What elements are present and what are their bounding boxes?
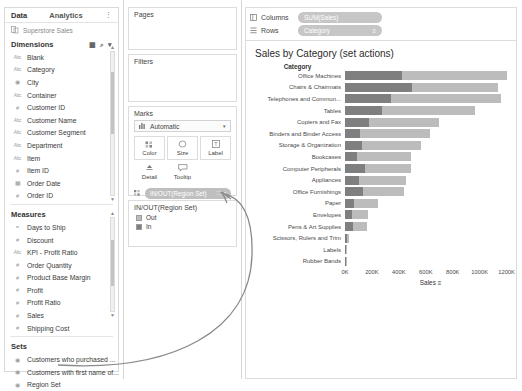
- measure-item[interactable]: #Sales: [5, 309, 118, 322]
- measure-item[interactable]: #Profit Ratio: [5, 297, 118, 310]
- measure-item[interactable]: #Order Quantity: [5, 259, 118, 272]
- rows-shelf[interactable]: Rows Category ≡: [250, 24, 512, 37]
- dimensions-scroll-down[interactable]: ▼: [110, 196, 115, 202]
- detail-button[interactable]: Detail: [134, 160, 165, 184]
- table-row[interactable]: Copiers and Fax: [246, 116, 516, 128]
- bar-segment-out[interactable]: [363, 187, 405, 196]
- search-icon[interactable]: ⌕: [100, 41, 104, 49]
- tab-data[interactable]: Data: [11, 11, 27, 20]
- table-row[interactable]: Pens & Art Supplies: [246, 221, 516, 233]
- dimensions-scrollbar-thumb[interactable]: [111, 72, 114, 134]
- bar-segment-in[interactable]: [345, 118, 369, 127]
- legend-item-in[interactable]: In: [129, 222, 236, 231]
- filters-card[interactable]: Filters: [128, 54, 237, 102]
- bar-segment-out[interactable]: [352, 210, 368, 219]
- bar-segment-in[interactable]: [345, 83, 412, 92]
- bar-segment-out[interactable]: [359, 176, 406, 185]
- dimension-item[interactable]: #Order ID: [5, 190, 118, 203]
- rows-pill-category[interactable]: Category ≡: [298, 25, 382, 36]
- bar-segment-in[interactable]: [345, 129, 360, 138]
- bar-segment-out[interactable]: [353, 222, 367, 231]
- grid-icon[interactable]: ▦: [89, 41, 96, 49]
- bar-segment-in[interactable]: [345, 222, 353, 231]
- tab-analytics[interactable]: Analytics: [49, 11, 82, 20]
- bar-segment-out[interactable]: [347, 234, 349, 243]
- bar-segment-out[interactable]: [391, 94, 500, 103]
- mark-type-dropdown[interactable]: Automatic ▾: [134, 120, 231, 132]
- dimensions-scroll-up[interactable]: ▲: [110, 44, 115, 50]
- table-row[interactable]: Office Machines: [246, 70, 516, 82]
- bar-segment-in[interactable]: [345, 210, 352, 219]
- table-row[interactable]: Telephones and Commun...: [246, 93, 516, 105]
- bar-segment-in[interactable]: [345, 199, 354, 208]
- legend-item-out[interactable]: Out: [129, 213, 236, 222]
- dimensions-scrollbar[interactable]: [110, 51, 115, 196]
- bar-segment-out[interactable]: [365, 164, 411, 173]
- measures-scrollbar-thumb[interactable]: [111, 240, 114, 286]
- bar-segment-in[interactable]: [345, 176, 359, 185]
- bar-segment-out[interactable]: [412, 83, 498, 92]
- measures-scrollbar[interactable]: [110, 217, 115, 312]
- label-button[interactable]: T Label: [200, 136, 231, 160]
- bar-segment-in[interactable]: [345, 164, 365, 173]
- sort-icon[interactable]: ≡: [372, 28, 376, 34]
- columns-pill-sum-sales[interactable]: SUM(Sales): [298, 12, 382, 23]
- marks-pill-icons[interactable]: ⛶ ≡: [217, 190, 226, 197]
- color-button[interactable]: Color: [134, 136, 165, 160]
- bar-segment-out[interactable]: [357, 152, 412, 161]
- columns-shelf[interactable]: Columns SUM(Sales): [250, 11, 512, 24]
- size-button[interactable]: Size: [167, 136, 198, 160]
- table-row[interactable]: Office Furnishings: [246, 186, 516, 198]
- dimension-item[interactable]: #Item ID: [5, 164, 118, 177]
- bar-segment-in[interactable]: [345, 152, 357, 161]
- measure-item[interactable]: #Product Base Margin: [5, 272, 118, 285]
- table-row[interactable]: Bookcases: [246, 151, 516, 163]
- datasource-row[interactable]: Superstore Sales: [5, 23, 118, 37]
- set-item[interactable]: ◉Customers with first name of...: [5, 366, 118, 379]
- dimension-item[interactable]: AbcContainer: [5, 89, 118, 102]
- bar-segment-in[interactable]: [345, 141, 362, 150]
- bar-segment-out[interactable]: [360, 129, 430, 138]
- bar-segment-in[interactable]: [345, 94, 391, 103]
- measure-item[interactable]: #Profit: [5, 284, 118, 297]
- dimension-item[interactable]: AbcCustomer Name: [5, 114, 118, 127]
- bar-segment-in[interactable]: [345, 187, 363, 196]
- data-pane-more-icon[interactable]: ⋮: [105, 11, 113, 19]
- dimension-item[interactable]: AbcBlank: [5, 51, 118, 64]
- table-row[interactable]: Binders and Binder Access: [246, 128, 516, 140]
- table-row[interactable]: Paper: [246, 198, 516, 210]
- dimension-item[interactable]: ▦Order Date: [5, 177, 118, 190]
- dimension-item[interactable]: AbcItem: [5, 152, 118, 165]
- marks-pill-in-out-region-set[interactable]: IN/OUT(Region Set) ⛶ ≡: [145, 188, 231, 199]
- dimension-item[interactable]: AbcCustomer Segment: [5, 127, 118, 140]
- table-row[interactable]: Rubber Bands: [246, 256, 516, 268]
- measure-item[interactable]: =Days to Ship: [5, 221, 118, 234]
- table-row[interactable]: Chairs & Chairmats: [246, 82, 516, 94]
- bar-segment-out[interactable]: [382, 106, 475, 115]
- set-item[interactable]: ◉Region Set: [5, 379, 118, 391]
- dimension-item[interactable]: #Customer ID: [5, 101, 118, 114]
- bar-segment-in[interactable]: [345, 106, 382, 115]
- measures-scroll-up[interactable]: ▲: [110, 210, 115, 216]
- dimension-item[interactable]: ◉City: [5, 76, 118, 89]
- table-row[interactable]: Appliances: [246, 174, 516, 186]
- table-row[interactable]: Computer Peripherals: [246, 163, 516, 175]
- measure-item[interactable]: #Discount: [5, 234, 118, 247]
- measure-item[interactable]: AbcKPI - Profit Ratio: [5, 246, 118, 259]
- bar-segment-out[interactable]: [354, 199, 378, 208]
- bar-segment-out[interactable]: [369, 118, 440, 127]
- axis-sort-icon[interactable]: ≡: [438, 280, 442, 286]
- dimension-item[interactable]: AbcCategory: [5, 64, 118, 77]
- table-row[interactable]: Envelopes: [246, 209, 516, 221]
- dimension-item[interactable]: AbcDepartment: [5, 139, 118, 152]
- measure-item[interactable]: #Shipping Cost: [5, 322, 118, 335]
- chevron-down-icon[interactable]: ▾: [223, 123, 226, 129]
- bar-segment-out[interactable]: [362, 141, 421, 150]
- table-row[interactable]: Tables: [246, 105, 516, 117]
- bar-segment-out[interactable]: [346, 245, 347, 254]
- bar-segment-out[interactable]: [402, 71, 506, 80]
- table-row[interactable]: Labels: [246, 244, 516, 256]
- table-row[interactable]: Scissors, Rulers and Trim: [246, 232, 516, 244]
- table-row[interactable]: Storage & Organization: [246, 140, 516, 152]
- set-item[interactable]: ◉Customers who purchased ...: [5, 353, 118, 366]
